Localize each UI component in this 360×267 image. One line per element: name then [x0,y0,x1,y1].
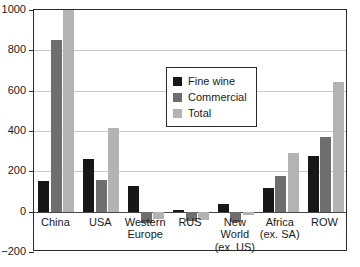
x-axis-label: China [41,216,70,229]
y-axis-tick [29,50,34,51]
bar [320,137,331,212]
bar [38,181,49,211]
bar [63,10,74,212]
bar [218,204,229,212]
y-axis-tick [29,10,34,11]
x-axis-label: New World (ex. US) [215,216,255,254]
bar [275,176,286,211]
legend-swatch-icon [173,109,182,118]
x-axis-label: Western Europe [125,216,166,241]
legend-item-commercial: Commercial [173,89,247,105]
y-axis-label: 200 [0,165,26,176]
bar [96,180,107,211]
chart-legend: Fine wine Commercial Total [166,67,257,127]
y-axis-label: 400 [0,125,26,136]
bar-chart: 10008006004002000−200 ChinaUSAWestern Eu… [0,0,360,267]
y-axis-label: 600 [0,84,26,95]
x-axis-label: USA [89,216,112,229]
y-axis-label: 0 [0,205,26,216]
bar [51,40,62,211]
bar [83,159,94,211]
x-axis-label: Africa (ex. SA) [260,216,300,241]
bar-groups [34,10,346,250]
y-axis-tick [29,252,34,253]
y-axis-tick [29,91,34,92]
y-axis-tick [29,131,34,132]
bar [333,82,344,212]
bar [308,156,319,211]
legend-item-total: Total [173,105,247,121]
y-axis-tick [29,212,34,213]
legend-swatch-icon [173,93,182,102]
legend-label: Total [188,108,211,119]
legend-item-fine-wine: Fine wine [173,73,247,89]
x-axis-label: ROW [311,216,338,229]
y-axis-label: −200 [0,246,26,257]
x-axis-label: RUS [178,216,201,229]
bar [108,128,119,212]
y-axis-tick [29,171,34,172]
legend-label: Commercial [188,92,247,103]
bar [128,186,139,211]
bar [243,212,254,215]
y-axis-label: 800 [0,44,26,55]
y-axis-label: 1000 [0,4,26,15]
bar [288,153,299,211]
legend-swatch-icon [173,77,182,86]
bar [263,188,274,211]
bar [173,210,184,212]
legend-label: Fine wine [188,76,235,87]
